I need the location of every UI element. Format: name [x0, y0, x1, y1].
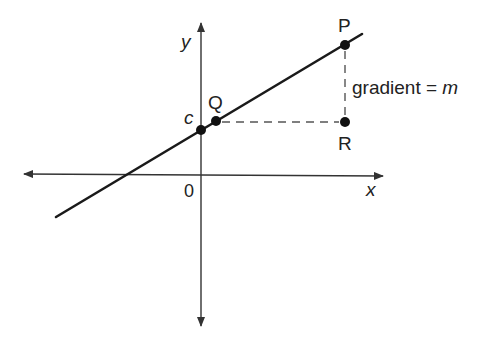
line-graph-diagram: y x 0 c Q P R gradient = m — [0, 0, 495, 346]
point-q-label: Q — [208, 92, 223, 113]
point-p-label: P — [338, 15, 351, 36]
point-q — [211, 116, 221, 126]
point-c-label: c — [184, 107, 194, 128]
gradient-text: gradient = — [352, 77, 442, 98]
x-axis — [201, 175, 383, 176]
x-axis-label: x — [365, 179, 377, 200]
straight-line — [56, 34, 362, 217]
point-r-label: R — [338, 133, 352, 154]
origin-label: 0 — [184, 181, 194, 201]
point-p — [340, 40, 350, 50]
y-axis-label: y — [179, 31, 192, 52]
gradient-annotation: gradient = m — [352, 77, 458, 98]
point-r — [340, 117, 350, 127]
gradient-variable: m — [442, 77, 458, 98]
point-c — [196, 125, 206, 135]
x-axis-negative — [24, 174, 201, 175]
